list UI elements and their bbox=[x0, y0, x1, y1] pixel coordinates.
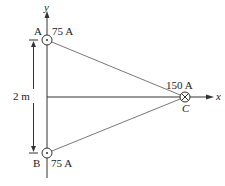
y-axis-label: y bbox=[43, 1, 49, 13]
wire-b-dot-center bbox=[46, 152, 48, 154]
diagram-canvas: y x 2 m A 75 A B 75 A 150 A C bbox=[0, 0, 225, 186]
wire-a-current: 75 A bbox=[52, 25, 73, 37]
x-axis-label: x bbox=[215, 90, 221, 102]
wire-a-dot-center bbox=[46, 39, 48, 41]
wire-b-current: 75 A bbox=[51, 157, 72, 169]
wire-c-current: 150 A bbox=[166, 79, 193, 91]
x-axis-arrow-icon bbox=[206, 95, 214, 100]
dimension-label: 2 m bbox=[13, 90, 30, 102]
line-b-c bbox=[47, 97, 185, 153]
wire-a-label: A bbox=[34, 25, 42, 37]
wire-c-label: C bbox=[182, 102, 190, 114]
wire-b-label: B bbox=[33, 157, 40, 169]
wire-diagram: y x 2 m A 75 A B 75 A 150 A C bbox=[0, 0, 225, 186]
dim-arrow-up-icon bbox=[31, 41, 36, 47]
dim-arrow-down-icon bbox=[31, 146, 36, 152]
line-a-c bbox=[47, 40, 185, 97]
